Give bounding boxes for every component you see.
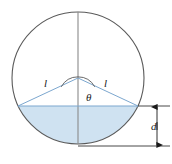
- angle-theta-label: θ: [86, 92, 91, 103]
- liquid-segment-group: [0, 106, 172, 164]
- liquid-segment-fill: [0, 106, 172, 164]
- figure-container: l l θ d: [0, 0, 172, 164]
- depth-label: d: [151, 121, 157, 132]
- leg-left-label: l: [44, 78, 47, 89]
- triangle-leg-left: [18, 78, 78, 106]
- circle-tank-diagram: [0, 0, 172, 164]
- leg-right-label: l: [104, 78, 107, 89]
